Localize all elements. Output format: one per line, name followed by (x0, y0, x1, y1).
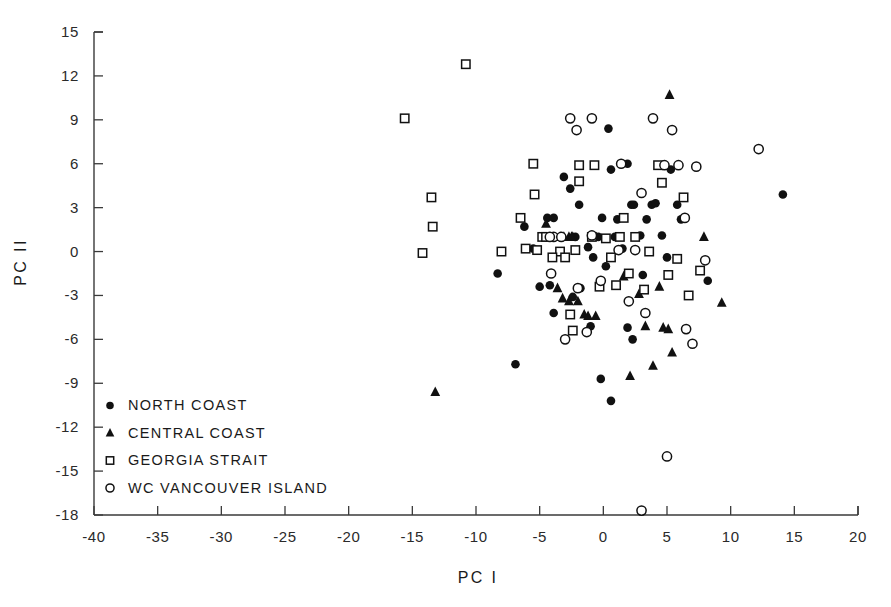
point-2-33 (569, 326, 577, 334)
axes (94, 32, 858, 515)
point-3-17 (547, 269, 556, 278)
point-2-3 (429, 222, 437, 230)
point-3-14 (587, 231, 596, 240)
point-2-6 (516, 214, 524, 222)
point-3-4 (667, 125, 676, 134)
point-legend-1 (106, 428, 115, 436)
legend-item-label: GEORGIA STRAIT (128, 452, 269, 468)
point-2-24 (645, 247, 653, 255)
point-3-6 (660, 161, 669, 170)
x-tick-label: -35 (146, 528, 169, 545)
x-tick-label: -5 (532, 528, 547, 545)
point-2-26 (658, 179, 666, 187)
y-tick-label: -9 (64, 374, 79, 391)
legend-item-label: CENTRAL COAST (128, 425, 266, 441)
point-1-20 (665, 89, 675, 99)
point-0-39 (546, 281, 555, 290)
x-tick-label: -40 (82, 528, 105, 545)
point-2-18 (607, 253, 615, 261)
point-0-7 (575, 200, 584, 209)
legend: NORTH COASTCENTRAL COASTGEORGIA STRAITWC… (106, 397, 328, 496)
x-tick-label: 15 (785, 528, 803, 545)
series-central-coast (430, 89, 726, 396)
y-tick-label: -6 (64, 330, 79, 347)
y-tick-label: 0 (70, 243, 79, 260)
legend-item-3: WC VANCOUVER ISLAND (106, 480, 328, 496)
point-3-29 (701, 256, 710, 265)
point-2-39 (561, 253, 569, 261)
x-tick-label: -20 (337, 528, 360, 545)
point-3-22 (682, 325, 691, 334)
x-tick-label: 20 (849, 528, 867, 545)
point-0-34 (596, 375, 605, 384)
point-2-1 (462, 60, 470, 68)
x-tick-label: 0 (599, 528, 608, 545)
point-3-23 (688, 339, 697, 348)
point-2-22 (631, 233, 639, 241)
point-0-23 (658, 231, 667, 240)
point-2-29 (679, 193, 687, 201)
legend-item-0: NORTH COAST (106, 397, 247, 413)
y-tick-label: 12 (61, 67, 79, 84)
legend-item-label: NORTH COAST (128, 397, 248, 413)
point-0-37 (628, 335, 637, 344)
point-2-27 (664, 271, 672, 279)
point-0-6 (566, 184, 575, 193)
y-tick-label: 3 (70, 199, 79, 216)
scatter-plot-figure: -40-35-30-25-20-15-10-50510152015129630-… (0, 0, 891, 607)
point-2-38 (548, 253, 556, 261)
point-2-23 (640, 285, 648, 293)
point-1-22 (717, 297, 727, 307)
point-3-3 (648, 114, 657, 123)
x-tick-label: 5 (663, 528, 672, 545)
point-0-28 (703, 277, 712, 286)
y-tick-label: 15 (61, 23, 79, 40)
y-tick-label: -18 (56, 506, 79, 523)
point-2-30 (684, 291, 692, 299)
point-2-0 (400, 114, 408, 122)
x-axis-title: PC I (458, 569, 499, 586)
y-tick-label: -15 (56, 462, 79, 479)
point-2-19 (612, 281, 620, 289)
series-georgia-strait (400, 60, 704, 335)
point-0-11 (598, 214, 607, 223)
point-3-1 (587, 114, 596, 123)
point-1-19 (667, 347, 677, 357)
point-2-14 (575, 161, 583, 169)
x-tick-label: 10 (722, 528, 740, 545)
point-1-6 (553, 283, 563, 293)
point-0-41 (602, 262, 611, 271)
point-3-8 (692, 162, 701, 171)
x-tick-label: -30 (210, 528, 233, 545)
point-0-1 (520, 222, 529, 231)
point-3-18 (573, 284, 582, 293)
point-3-11 (754, 144, 763, 153)
point-3-21 (641, 308, 650, 317)
point-3-9 (637, 188, 646, 197)
series-wc-vancouver-island (545, 114, 763, 515)
point-3-16 (631, 245, 640, 254)
point-0-38 (535, 282, 544, 291)
point-3-13 (557, 232, 566, 241)
point-0-24 (663, 253, 672, 262)
y-tick-label: 9 (70, 111, 79, 128)
point-legend-3 (106, 484, 114, 492)
y-tick-label: -12 (56, 418, 79, 435)
point-3-24 (662, 452, 671, 461)
point-0-35 (607, 397, 616, 406)
point-3-2 (572, 125, 581, 134)
point-1-7 (558, 293, 568, 303)
point-3-7 (674, 161, 683, 170)
point-3-27 (561, 335, 570, 344)
point-2-32 (566, 310, 574, 318)
legend-item-2: GEORGIA STRAIT (106, 452, 268, 468)
point-2-28 (673, 255, 681, 263)
point-legend-0 (106, 402, 114, 410)
point-3-19 (596, 276, 605, 285)
point-3-26 (582, 327, 591, 336)
point-2-15 (575, 177, 583, 185)
point-0-5 (560, 173, 569, 182)
point-0-30 (511, 360, 520, 369)
point-1-0 (430, 386, 440, 396)
axis-ticks (94, 32, 858, 515)
